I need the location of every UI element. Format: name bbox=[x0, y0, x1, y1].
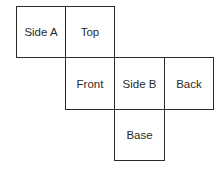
face-side-a: Side A bbox=[16, 6, 66, 58]
face-front: Front bbox=[65, 57, 115, 110]
face-side-b: Side B bbox=[114, 57, 165, 110]
face-top: Top bbox=[65, 6, 115, 58]
face-label: Top bbox=[81, 26, 100, 38]
face-label: Base bbox=[126, 129, 152, 141]
face-base: Base bbox=[114, 109, 165, 161]
face-label: Side A bbox=[24, 26, 57, 38]
face-label: Front bbox=[77, 78, 104, 90]
face-back: Back bbox=[164, 57, 214, 110]
face-label: Side B bbox=[123, 78, 157, 90]
face-label: Back bbox=[176, 78, 202, 90]
